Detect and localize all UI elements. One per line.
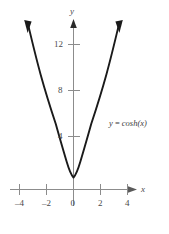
x-axis-arrowhead (128, 186, 137, 193)
y-tick-label-12: 12 (54, 40, 63, 49)
x-tick-label--2: –2 (42, 199, 51, 208)
y-tick-label-8: 8 (58, 86, 63, 95)
cosh-function-plot: –4 –2 0 2 4 4 8 12 x y y = cosh(x) (0, 0, 169, 234)
y-axis-label: y (70, 7, 74, 16)
curve-equation-operator: = (113, 118, 122, 128)
x-tick-label-4: 4 (125, 199, 130, 208)
plot-canvas (0, 0, 169, 234)
curve-equation-label: y = cosh(x) (109, 119, 147, 128)
x-tick-label-0: 0 (71, 199, 76, 208)
y-axis-arrowhead (70, 19, 77, 28)
y-tick-label-4: 4 (58, 132, 63, 141)
x-tick-label--4: –4 (15, 199, 24, 208)
x-axis-label: x (141, 185, 145, 194)
x-tick-label-2: 2 (98, 199, 103, 208)
curve-equation-rhs: cosh(x) (122, 118, 147, 128)
